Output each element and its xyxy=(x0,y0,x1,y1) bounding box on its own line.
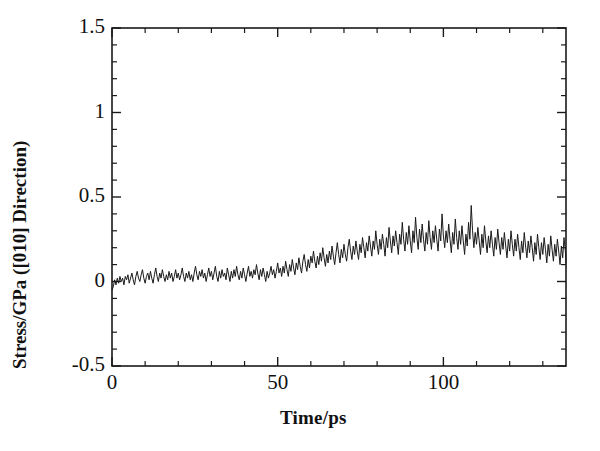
plot-frame xyxy=(112,28,566,366)
stress-vs-time-figure: Stress/GPa ([010] Direction) Time/ps -0.… xyxy=(0,0,600,451)
y-axis-title: Stress/GPa ([010] Direction) xyxy=(9,141,31,369)
plot-border xyxy=(112,28,566,366)
y-tick-label: 1 xyxy=(95,99,106,124)
x-tick-label: 0 xyxy=(107,370,118,395)
x-tick-label: 50 xyxy=(267,370,288,395)
axis-ticks xyxy=(112,28,566,366)
y-tick-label: 1.5 xyxy=(79,14,105,39)
y-tick-label: 0 xyxy=(95,268,106,293)
x-axis-title: Time/ps xyxy=(280,407,347,429)
y-tick-label: 0.5 xyxy=(79,183,105,208)
y-tick-label: -0.5 xyxy=(72,352,105,377)
x-tick-label: 100 xyxy=(428,370,460,395)
data-line xyxy=(112,205,566,290)
data-series xyxy=(112,205,566,290)
plot-canvas xyxy=(0,0,600,451)
